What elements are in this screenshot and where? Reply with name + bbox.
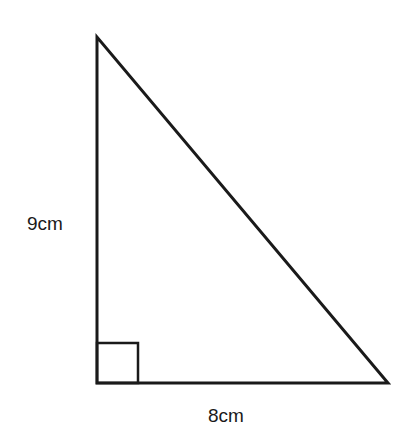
vertical-side-label: 9cm (27, 213, 63, 235)
horizontal-side-label: 8cm (208, 405, 244, 427)
right-triangle (97, 37, 388, 383)
right-angle-marker (97, 343, 138, 383)
